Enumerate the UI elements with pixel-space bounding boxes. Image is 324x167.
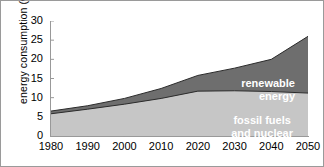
plot-area: renewable energy fossil fuels and nuclea… [50,21,309,137]
x-tick-label-1990: 1990 [68,141,108,152]
x-tick-label-2030: 2030 [215,141,255,152]
x-tick-label-2040: 2040 [251,141,291,152]
x-tick-label-2050: 2050 [288,141,324,152]
x-tick-label-2020: 2020 [178,141,218,152]
series-label-renewable-energy: renewable energy [241,77,295,102]
x-tick-label-2000: 2000 [104,141,144,152]
series-label-fossil-fuels: fossil fuels and nuclear [231,114,293,139]
x-tick-label-2010: 2010 [141,141,181,152]
x-tick-label-1980: 1980 [31,141,71,152]
chart-frame: energy consumption (Gtoe) 051015202530 1… [0,0,324,167]
